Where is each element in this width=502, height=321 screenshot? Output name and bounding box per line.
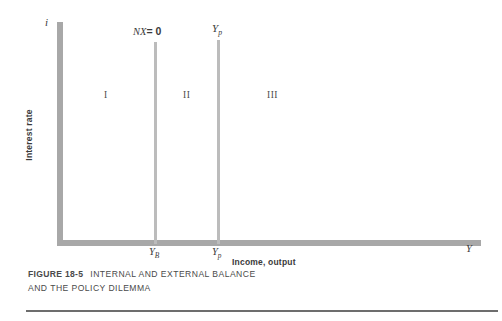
x-tick-label-yb: YB	[149, 246, 159, 260]
potential-output-label-top: Yp	[212, 22, 222, 37]
x-axis-title: Income, output	[232, 257, 296, 267]
bottom-divider-rule	[26, 310, 498, 312]
nx-zero-label: NX= 0	[133, 25, 161, 37]
nx-zero-label-prefix: NX	[133, 26, 146, 37]
potential-output-line	[217, 40, 220, 244]
figure-caption: FIGURE 18-5INTERNAL AND EXTERNAL BALANCE…	[28, 268, 468, 295]
x-tick-label-yb-sub: B	[155, 251, 160, 260]
figure-container: i Y NX= 0 Yp YB Yp I II III Interest rat…	[0, 0, 502, 321]
region-label-three: III	[267, 90, 278, 100]
plot-area: i Y NX= 0 Yp YB Yp I II III Interest rat…	[0, 0, 502, 260]
nx-zero-label-equals: = 0	[146, 25, 161, 37]
y-axis-line	[57, 22, 63, 244]
x-tick-label-yp-sub: p	[218, 251, 222, 260]
region-label-one: I	[104, 90, 108, 100]
figure-caption-line-1: INTERNAL AND EXTERNAL BALANCE	[90, 269, 255, 279]
figure-caption-line-2: AND THE POLICY DILEMMA	[28, 282, 468, 296]
nx-zero-line	[154, 42, 157, 244]
region-label-two: II	[183, 90, 190, 100]
y-axis-title: Interest rate	[24, 90, 34, 180]
x-axis-line	[57, 240, 481, 246]
x-tick-label-yp: Yp	[212, 246, 222, 260]
income-axis-symbol: Y	[466, 243, 472, 254]
interest-rate-axis-symbol: i	[45, 16, 48, 28]
potential-output-label-top-sub: p	[218, 28, 222, 37]
figure-number: FIGURE 18-5	[28, 269, 83, 279]
